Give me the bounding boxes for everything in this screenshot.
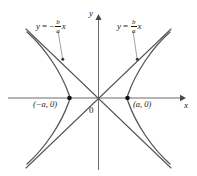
origin-label: 0 <box>89 105 94 115</box>
left-vertex-label: (−a, 0) <box>33 99 57 109</box>
right-eq-fraction: ba <box>131 19 137 35</box>
y-axis-label: y <box>89 8 93 18</box>
left-eq-denominator: a <box>55 28 61 35</box>
right-asymptote-equation: y=bax <box>117 19 142 35</box>
right-eq-variable: x <box>138 21 142 31</box>
right-eq-equals: = <box>123 21 128 31</box>
right-vertex-point <box>125 96 130 101</box>
right-label-leader-dot <box>136 58 139 61</box>
right-vertex-label: (a, 0) <box>133 99 151 109</box>
left-vertex-point <box>67 96 72 101</box>
left-asymptote-equation: y=−bax <box>36 19 66 35</box>
right-eq-y: y <box>117 21 121 31</box>
right-eq-denominator: a <box>131 28 137 35</box>
left-eq-numerator: b <box>55 19 61 26</box>
left-eq-y: y <box>36 21 40 31</box>
left-eq-variable: x <box>62 21 66 31</box>
left-label-leader-dot <box>61 58 64 61</box>
figure-canvas <box>0 0 197 176</box>
hyperbola-figure: y=−bax y=bax (−a, 0) (a, 0) 0 x y <box>0 0 197 176</box>
right-eq-numerator: b <box>131 19 137 26</box>
left-eq-minus: − <box>49 21 54 31</box>
left-eq-fraction: ba <box>55 19 61 35</box>
x-axis-label: x <box>184 100 188 110</box>
y-axis <box>95 14 101 170</box>
left-eq-equals: = <box>42 21 47 31</box>
